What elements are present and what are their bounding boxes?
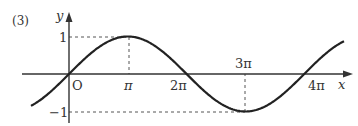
x-tick-4pi: 4π <box>308 79 325 92</box>
y-tick-1: 1 <box>59 31 67 44</box>
y-tick-neg1: −1 <box>49 106 68 119</box>
problem-label: (3) <box>12 15 29 27</box>
origin-label: O <box>72 79 83 92</box>
y-axis-arrow-icon <box>66 12 73 22</box>
x-axis-label: x <box>338 78 345 91</box>
y-axis-label: y <box>56 9 63 22</box>
x-tick-pi: π <box>124 79 133 92</box>
x-tick-3pi: 3π <box>235 57 252 70</box>
x-tick-2pi: 2π <box>170 79 187 92</box>
